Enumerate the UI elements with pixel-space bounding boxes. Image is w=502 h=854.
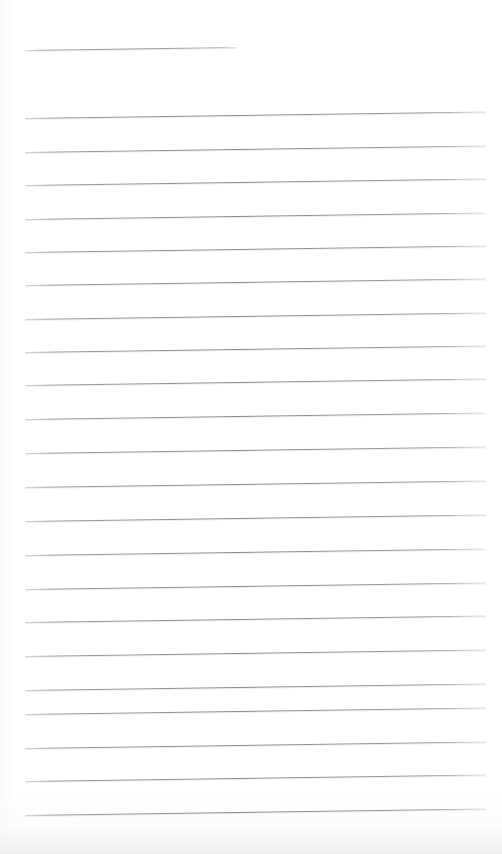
ruled-line	[25, 549, 486, 556]
ruled-line	[25, 313, 486, 320]
scan-edge-bottom	[0, 828, 502, 854]
ruled-line	[25, 583, 486, 590]
ruled-line	[25, 809, 486, 816]
ruled-line	[25, 246, 486, 253]
ruled-line	[25, 379, 486, 386]
ruled-line	[25, 279, 486, 286]
ruled-line	[25, 481, 486, 488]
ruled-line	[25, 146, 486, 153]
header-ruled-line	[25, 47, 237, 51]
ruled-line	[25, 413, 486, 420]
ruled-line	[25, 742, 486, 749]
ruled-line	[25, 112, 486, 119]
ruled-line	[25, 515, 486, 522]
scan-edge-left	[0, 0, 14, 854]
ruled-line	[25, 213, 486, 220]
ruled-line	[25, 616, 486, 623]
ruled-line	[25, 708, 486, 715]
ruled-line	[25, 179, 486, 186]
lined-paper-page	[0, 0, 502, 854]
ruled-line	[25, 650, 486, 657]
ruled-line	[25, 447, 486, 454]
paper-texture	[0, 0, 502, 854]
ruled-line	[25, 684, 486, 691]
ruled-line	[25, 346, 486, 353]
ruled-line	[25, 775, 486, 782]
